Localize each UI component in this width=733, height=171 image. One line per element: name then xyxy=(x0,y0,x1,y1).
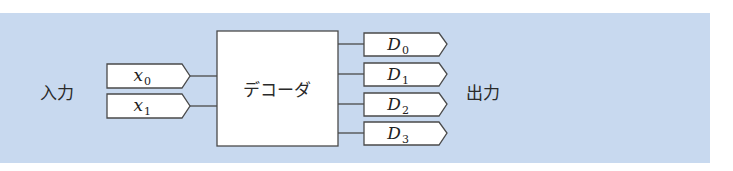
output-var: D xyxy=(386,123,401,143)
output-sub: 1 xyxy=(402,74,409,87)
output-var: D xyxy=(386,64,401,84)
output-sub: 3 xyxy=(402,133,409,146)
output-tag-d1: D 1 xyxy=(364,63,447,87)
output-var: D xyxy=(386,94,401,114)
decoder-label: デコーダ xyxy=(243,80,311,100)
output-sub: 0 xyxy=(402,44,409,57)
output-tag-d0: D 0 xyxy=(364,33,447,57)
input-tag-x0: x 0 xyxy=(107,64,190,88)
input-sub: 0 xyxy=(144,75,151,88)
input-tag-x1: x 1 xyxy=(107,94,190,118)
output-sub: 2 xyxy=(402,104,409,117)
output-var: D xyxy=(386,34,401,54)
input-var: x xyxy=(133,95,143,115)
input-sub: 1 xyxy=(144,105,151,118)
input-var: x xyxy=(133,65,143,85)
output-label: 出力 xyxy=(466,83,500,103)
output-tag-d2: D 2 xyxy=(364,93,447,117)
decoder-diagram: 入力 x 0 x 1 デコーダ D 0 D 1 D 2 D 3 xyxy=(0,0,733,171)
input-label: 入力 xyxy=(40,83,74,103)
decoder-block: デコーダ xyxy=(217,31,338,146)
output-tag-d3: D 3 xyxy=(364,122,447,146)
